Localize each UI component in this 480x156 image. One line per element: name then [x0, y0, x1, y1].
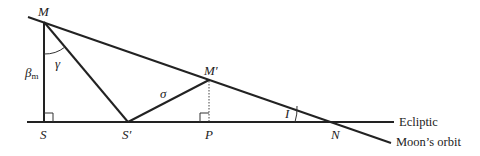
- label-p: P: [204, 127, 213, 142]
- label-m-prime: M′: [203, 63, 218, 78]
- label-ecliptic: Ecliptic: [399, 115, 438, 129]
- label-inclination: I: [284, 106, 290, 121]
- label-n: N: [330, 127, 341, 142]
- label-s-prime: S′: [122, 127, 132, 142]
- label-beta-m: βm: [24, 65, 39, 81]
- beta-subscript: m: [31, 71, 38, 81]
- gamma-angle-arc: [44, 47, 65, 54]
- segment-sprime-mprime: [128, 80, 209, 122]
- lunar-geometry-diagram: M S S′ M′ P N γ σ I βm Ecliptic Moon’s o…: [0, 0, 480, 156]
- right-angle-marker-s: [44, 113, 53, 122]
- inclination-angle-arc: [295, 106, 297, 122]
- right-angle-marker-p: [200, 113, 209, 122]
- label-m: M: [37, 4, 50, 19]
- label-sigma: σ: [160, 86, 167, 101]
- label-s: S: [40, 127, 47, 142]
- label-moons-orbit: Moon’s orbit: [396, 135, 461, 149]
- label-gamma: γ: [55, 56, 61, 71]
- moons-orbit-line: [28, 17, 391, 143]
